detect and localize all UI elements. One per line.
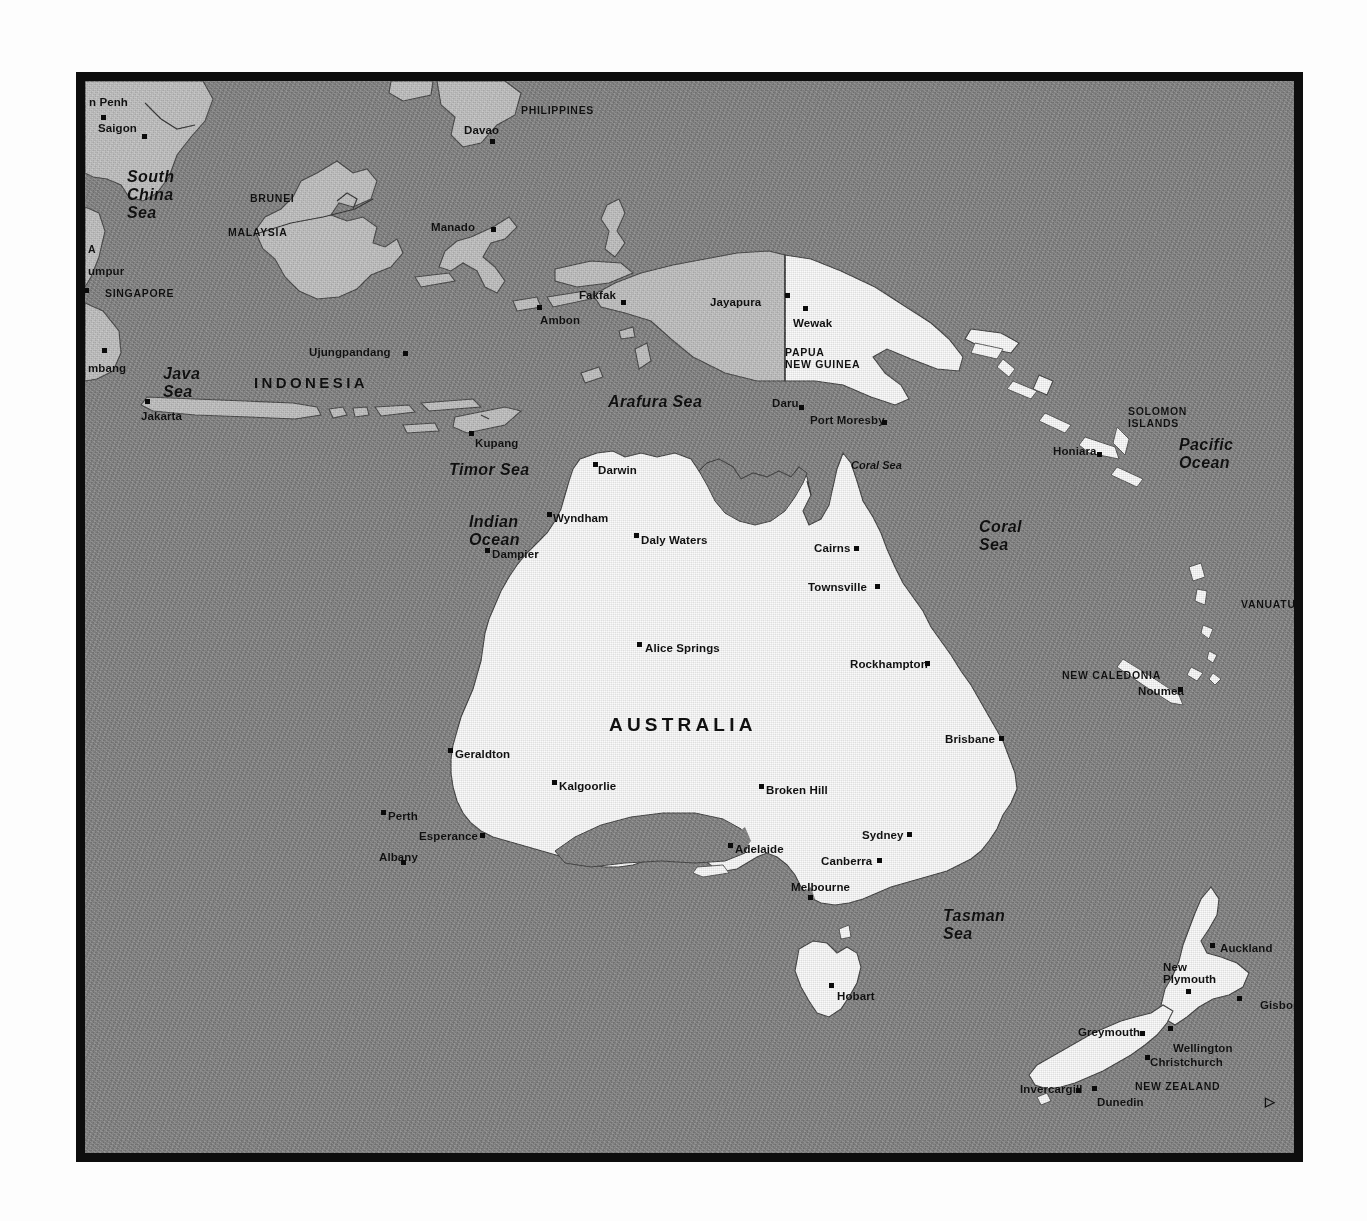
- city-label-daru-line-0: Daru: [772, 398, 799, 410]
- city-label-wewak: Wewak: [793, 318, 832, 330]
- city-label-brisbane-line-0: Brisbane: [945, 734, 995, 746]
- city-marker-broken-hill: [759, 784, 764, 789]
- city-label-palembang-line-0: mbang: [88, 363, 126, 375]
- country-label-vanuatu-line-0: VANUATU: [1241, 599, 1294, 610]
- city-label-gisborne-line-0: Gisborne: [1260, 1000, 1294, 1012]
- city-label-ujungpandang: Ujungpandang: [309, 347, 391, 359]
- corner-mark-icon: ▷: [1265, 1094, 1275, 1109]
- sea-label-indian-ocean-line-0: Indian: [469, 513, 520, 531]
- sea-label-south-china-sea-line-1: China: [127, 186, 174, 204]
- city-label-new-plymouth-line-0: New: [1163, 962, 1216, 974]
- country-label-philippines: PHILIPPINES: [521, 105, 594, 116]
- city-label-jakarta-line-0: Jakarta: [141, 411, 182, 423]
- sea-label-south-china-sea-line-0: South: [127, 168, 174, 186]
- city-label-greymouth-line-0: Greymouth: [1078, 1027, 1140, 1039]
- city-label-ujungpandang-line-0: Ujungpandang: [309, 347, 391, 359]
- city-label-port-moresby: Port Moresby: [810, 415, 885, 427]
- city-label-kalgoorlie-line-0: Kalgoorlie: [559, 781, 616, 793]
- city-marker-saigon: [142, 134, 147, 139]
- city-label-davao: Davao: [464, 125, 499, 137]
- city-marker-kalgoorlie: [552, 780, 557, 785]
- city-label-ambon: Ambon: [540, 315, 580, 327]
- country-label-singapore: SINGAPORE: [105, 288, 174, 299]
- city-label-esperance-line-0: Esperance: [419, 831, 478, 843]
- clipped-label-a-line-0: A: [88, 244, 96, 255]
- country-label-indonesia-line-0: INDONESIA: [254, 375, 368, 390]
- country-label-new-caledonia: NEW CALEDONIA: [1062, 670, 1161, 681]
- city-marker-albany: [401, 860, 406, 865]
- city-marker-wewak: [803, 306, 808, 311]
- sea-label-indian-ocean: IndianOcean: [469, 513, 520, 549]
- city-label-palembang: mbang: [88, 363, 126, 375]
- city-marker-dunedin: [1092, 1086, 1097, 1091]
- country-label-brunei: BRUNEI: [250, 193, 294, 204]
- country-label-papua-new-guinea-line-0: PAPUA: [785, 347, 860, 359]
- city-label-cairns: Cairns: [814, 543, 850, 555]
- city-label-jayapura-line-0: Jayapura: [710, 297, 761, 309]
- country-label-philippines-line-0: PHILIPPINES: [521, 105, 594, 116]
- city-label-hobart-line-0: Hobart: [837, 991, 875, 1003]
- sea-label-java-sea-line-0: Java: [163, 365, 200, 383]
- country-label-indonesia: INDONESIA: [254, 375, 368, 390]
- city-marker-geraldton: [448, 748, 453, 753]
- city-label-canberra: Canberra: [821, 856, 872, 868]
- sea-label-coral-sea-line-1: Sea: [979, 536, 1022, 554]
- city-label-auckland: Auckland: [1220, 943, 1273, 955]
- city-label-perth: Perth: [388, 811, 418, 823]
- sea-label-coral-sea-small: Coral Sea: [851, 460, 902, 471]
- map-canvas: SouthChinaSeaJavaSeaArafura SeaPacificOc…: [85, 81, 1294, 1153]
- label-layer: SouthChinaSeaJavaSeaArafura SeaPacificOc…: [85, 81, 1294, 1153]
- city-label-rockhampton: Rockhampton: [850, 659, 928, 671]
- sea-label-pacific-ocean: PacificOcean: [1179, 436, 1233, 472]
- city-label-kuala-lumpur: umpur: [88, 266, 124, 278]
- city-label-daly-waters-line-0: Daly Waters: [641, 535, 708, 547]
- city-label-manado-line-0: Manado: [431, 222, 475, 234]
- city-label-adelaide-line-0: Adelaide: [735, 844, 784, 856]
- sea-label-tasman-sea-line-1: Sea: [943, 925, 1005, 943]
- city-label-canberra-line-0: Canberra: [821, 856, 872, 868]
- city-label-kupang-line-0: Kupang: [475, 438, 518, 450]
- city-marker-honiara: [1097, 452, 1102, 457]
- country-label-australia-line-0: AUSTRALIA: [609, 715, 757, 734]
- city-marker-phnom-penh: [101, 115, 106, 120]
- city-label-esperance: Esperance: [419, 831, 478, 843]
- city-marker-perth: [381, 810, 386, 815]
- city-label-townsville-line-0: Townsville: [808, 582, 867, 594]
- city-marker-palembang: [102, 348, 107, 353]
- city-marker-kupang: [469, 431, 474, 436]
- city-marker-kuala-lumpur: [85, 288, 89, 293]
- country-label-solomon-islands: SOLOMONISLANDS: [1128, 406, 1187, 430]
- city-marker-fakfak: [621, 300, 626, 305]
- sea-label-coral-sea: CoralSea: [979, 518, 1022, 554]
- city-marker-rockhampton: [925, 661, 930, 666]
- country-label-australia: AUSTRALIA: [609, 715, 757, 734]
- country-label-vanuatu: VANUATU: [1241, 599, 1294, 610]
- city-label-dunedin: Dunedin: [1097, 1097, 1144, 1109]
- city-label-kupang: Kupang: [475, 438, 518, 450]
- clipped-label-a: A: [88, 244, 96, 255]
- city-marker-manado: [491, 227, 496, 232]
- city-marker-christchurch: [1145, 1055, 1150, 1060]
- city-marker-new-plymouth: [1186, 989, 1191, 994]
- city-label-wewak-line-0: Wewak: [793, 318, 832, 330]
- city-marker-greymouth: [1140, 1031, 1145, 1036]
- city-marker-hobart: [829, 983, 834, 988]
- city-marker-alice-springs: [637, 642, 642, 647]
- city-label-sydney-line-0: Sydney: [862, 830, 904, 842]
- city-label-wellington-line-0: Wellington: [1173, 1043, 1233, 1055]
- sea-label-timor-sea-line-0: Timor Sea: [449, 462, 530, 478]
- city-label-melbourne-line-0: Melbourne: [791, 882, 850, 894]
- city-label-davao-line-0: Davao: [464, 125, 499, 137]
- page-canvas: SouthChinaSeaJavaSeaArafura SeaPacificOc…: [0, 0, 1367, 1221]
- city-marker-adelaide: [728, 843, 733, 848]
- sea-label-java-sea-line-1: Sea: [163, 383, 200, 401]
- city-label-wyndham-line-0: Wyndham: [553, 513, 608, 525]
- city-label-phnom-penh: n Penh: [89, 97, 128, 109]
- city-marker-cairns: [854, 546, 859, 551]
- city-label-jayapura: Jayapura: [710, 297, 761, 309]
- city-label-manado: Manado: [431, 222, 475, 234]
- country-label-singapore-line-0: SINGAPORE: [105, 288, 174, 299]
- city-marker-invercargill: [1076, 1088, 1081, 1093]
- country-label-new-caledonia-line-0: NEW CALEDONIA: [1062, 670, 1161, 681]
- city-marker-auckland: [1210, 943, 1215, 948]
